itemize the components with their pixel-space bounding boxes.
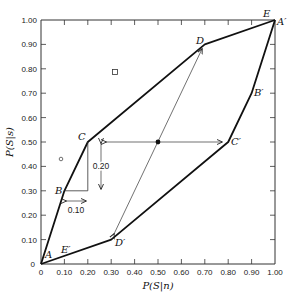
y-tick-0.40: 0.40 [21, 162, 37, 171]
open-square-marker [113, 70, 118, 75]
y-tick-0.20: 0.20 [21, 211, 37, 220]
y-tick-1.00: 1.00 [21, 16, 37, 25]
x-tick-0.70: 0.70 [197, 268, 213, 277]
roc-diagram: 0 0.10 0.20 0.30 0.40 0.50 0.60 0.70 0.8… [0, 0, 296, 298]
y-tick-0.90: 0.90 [21, 40, 37, 49]
y-tick-0.50: 0.50 [21, 138, 37, 147]
center-point [156, 140, 161, 145]
label-C-prime: C′ [231, 136, 242, 147]
x-tick-labels: 0 0.10 0.20 0.30 0.40 0.50 0.60 0.70 0.8… [39, 268, 284, 277]
label-C: C [78, 131, 86, 142]
x-tick-0.50: 0.50 [150, 268, 166, 277]
x-tick-0.60: 0.60 [174, 268, 190, 277]
y-tick-0.60: 0.60 [21, 114, 37, 123]
y-tick-labels: 0 0.10 0.20 0.30 0.40 0.50 0.60 0.70 0.8… [21, 16, 37, 269]
label-D-prime: D′ [114, 237, 126, 248]
x-tick-0.90: 0.90 [244, 268, 260, 277]
y-tick-0.30: 0.30 [21, 187, 37, 196]
label-E: E [262, 8, 271, 19]
y-tick-0.10: 0.10 [21, 236, 37, 245]
label-A: A [44, 249, 52, 260]
label-B: B [54, 185, 62, 196]
x-tick-0.40: 0.40 [127, 268, 143, 277]
y-axis-title: P(S|s) [4, 127, 16, 158]
x-tick-0: 0 [39, 268, 44, 277]
label-B-prime: B′ [253, 87, 264, 98]
dy-label: 0.20 [93, 161, 110, 171]
dx-label: 0.10 [68, 205, 85, 215]
open-circle-marker [59, 157, 63, 161]
label-D: D [195, 35, 204, 46]
x-axis-title: P(S|n) [141, 280, 173, 292]
x-tick-0.20: 0.20 [80, 268, 96, 277]
x-tick-0.30: 0.30 [103, 268, 119, 277]
x-tick-0.80: 0.80 [220, 268, 236, 277]
x-tick-1.00: 1.00 [267, 268, 283, 277]
y-tick-0: 0 [31, 260, 36, 269]
label-A-prime: A′ [276, 16, 287, 27]
y-tick-0.70: 0.70 [21, 89, 37, 98]
label-E-prime: E′ [60, 244, 71, 255]
y-tick-0.80: 0.80 [21, 65, 37, 74]
x-tick-0.10: 0.10 [57, 268, 73, 277]
